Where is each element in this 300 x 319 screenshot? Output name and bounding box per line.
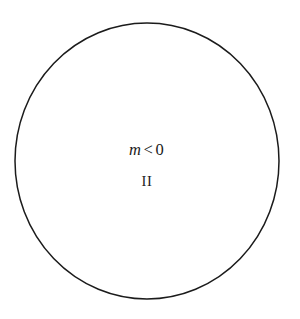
figure-container: m<0 II (0, 0, 300, 319)
region-diagram (0, 0, 300, 319)
figure-background (0, 0, 300, 319)
